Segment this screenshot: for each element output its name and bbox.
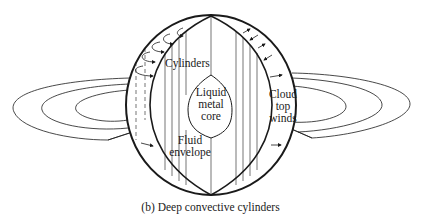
label-core-line2: metal (190, 98, 232, 110)
label-winds-line3: winds (266, 112, 300, 124)
figure-caption: (b) Deep convective cylinders (0, 201, 421, 213)
label-fluid-envelope: Fluid envelope (164, 134, 216, 158)
label-winds-line2: top (266, 100, 300, 112)
label-core-line3: core (190, 110, 232, 122)
label-liquid-metal-core: Liquid metal core (190, 86, 232, 122)
label-cloud-top-winds: Cloud top winds (266, 88, 300, 124)
label-core-line1: Liquid (190, 86, 232, 98)
label-envelope-line2: envelope (164, 146, 216, 158)
label-cylinders: Cylinders (165, 57, 210, 69)
label-winds-line1: Cloud (266, 88, 300, 100)
label-envelope-line1: Fluid (164, 134, 216, 146)
